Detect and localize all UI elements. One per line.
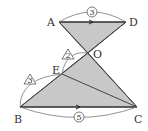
label-d: D: [129, 16, 138, 29]
ratio-bc: 5: [76, 113, 81, 122]
ratio-eo: 2: [65, 51, 70, 60]
label-o: O: [93, 48, 102, 61]
ratio-ad: 3: [89, 8, 94, 17]
label-a: A: [46, 16, 56, 29]
label-e: E: [52, 64, 60, 77]
ratio-be: 3: [27, 76, 32, 85]
label-c: C: [134, 113, 142, 126]
geometry-diagram: 3 5 2 3 A D O E B C: [0, 0, 148, 131]
label-b: B: [14, 113, 22, 126]
